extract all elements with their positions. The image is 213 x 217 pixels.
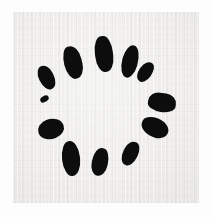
- spinner-blade: [60, 140, 82, 177]
- spinner-blade: [118, 139, 142, 168]
- spinner-blade: [60, 44, 85, 80]
- screenshot-root: [0, 0, 213, 217]
- spinner-blade: [35, 115, 67, 143]
- spinner-blade: [139, 114, 172, 141]
- spinner-blade: [39, 94, 50, 104]
- loading-spinner: [13, 12, 199, 203]
- spinner-blade: [89, 147, 110, 178]
- spinner-blade: [34, 63, 58, 92]
- spinner-blade: [93, 35, 115, 73]
- spinner-blade: [147, 91, 177, 114]
